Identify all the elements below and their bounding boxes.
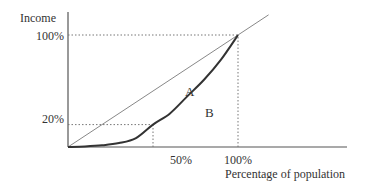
x-tick-label-100: 100%	[224, 153, 252, 167]
y-tick-label-20: 20%	[42, 112, 64, 126]
y-tick-label-100: 100%	[36, 29, 64, 43]
lorenz-curve-diagram: Income 100% 20% 50% 100% Percentage of p…	[0, 0, 365, 189]
x-axis-label: Percentage of population	[225, 167, 345, 181]
region-label-a: A	[185, 84, 195, 99]
x-tick-label-50: 50%	[170, 153, 192, 167]
equality-line	[68, 15, 269, 147]
region-label-b: B	[205, 105, 214, 120]
y-axis-label: Income	[20, 11, 56, 25]
